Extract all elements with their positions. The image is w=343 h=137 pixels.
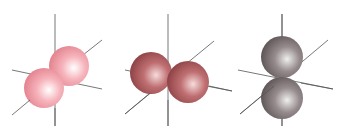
y-axis-front bbox=[209, 86, 232, 91]
y-axis-front bbox=[301, 83, 333, 89]
orbital-lobe bbox=[24, 68, 64, 108]
orbital-pz bbox=[238, 14, 333, 126]
orbital-lobe bbox=[261, 77, 303, 119]
orbital-lobe bbox=[167, 61, 209, 103]
orbital-py bbox=[125, 14, 232, 126]
orbital-px bbox=[12, 14, 102, 126]
p-orbitals-diagram bbox=[0, 0, 343, 137]
x-axis-front bbox=[12, 100, 30, 115]
orbital-lobe bbox=[261, 36, 303, 78]
x-axis-front bbox=[125, 93, 150, 114]
orbital-lobe bbox=[130, 52, 172, 94]
